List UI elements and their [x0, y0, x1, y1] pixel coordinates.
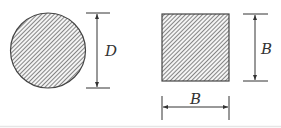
cross-section-diagram: D B B: [0, 0, 281, 128]
hatched-square: [162, 14, 229, 81]
circle-section: [11, 13, 86, 88]
width-dimension: B: [162, 90, 229, 120]
diameter-dimension: D: [86, 13, 117, 88]
square-section: [162, 14, 229, 81]
hatched-circle: [11, 13, 86, 88]
diameter-label: D: [104, 42, 117, 60]
width-label: B: [189, 90, 201, 108]
height-label: B: [260, 40, 272, 58]
height-dimension: B: [243, 14, 272, 81]
